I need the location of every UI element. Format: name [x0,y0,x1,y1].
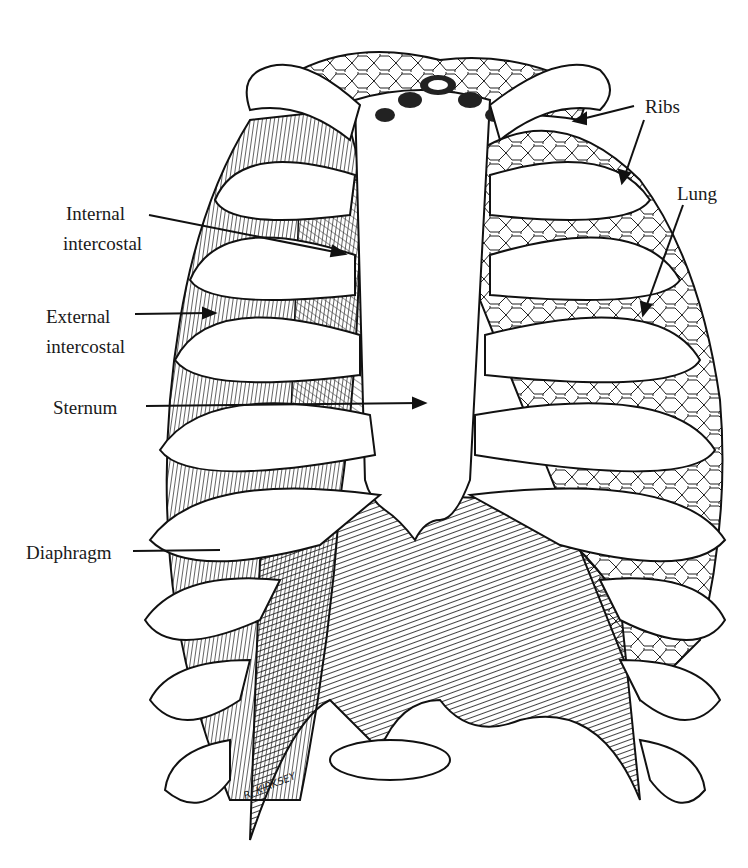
label-sternum: Sternum [53,397,117,418]
label-lung: Lung [677,183,717,204]
label-internal-intercostal-line2: intercostal [63,233,142,254]
label-ribs: Ribs [645,96,680,117]
label-diaphragm: Diaphragm [26,542,111,563]
sternum-shape [355,90,490,540]
label-external-intercostal-line2: intercostal [46,336,125,357]
label-external-intercostal-line1: External [46,306,110,327]
thoracic-cage-illustration [0,0,748,868]
label-internal-intercostal-line1: Internal [66,203,125,224]
